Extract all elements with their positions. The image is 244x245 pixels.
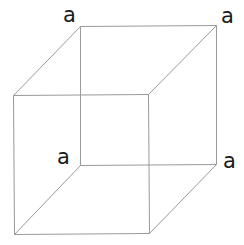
cube-edge: [15, 166, 81, 235]
label-back-bottom-left: a: [57, 145, 70, 169]
cube-edge: [149, 95, 150, 234]
cube-edge: [81, 26, 217, 27]
cube-diagram: a a a a: [0, 0, 244, 245]
cube-edge: [81, 165, 217, 166]
label-back-bottom-right: a: [223, 149, 236, 173]
vertex-labels: a a a a: [57, 3, 236, 173]
cube-edges: [14, 26, 217, 235]
cube-edge: [150, 165, 217, 234]
cube-edge: [15, 234, 150, 235]
label-back-top-right: a: [221, 4, 234, 28]
label-back-top-left: a: [63, 3, 76, 27]
cube-edge: [149, 26, 217, 95]
cube-edge: [14, 96, 15, 235]
cube-edge: [14, 27, 81, 96]
